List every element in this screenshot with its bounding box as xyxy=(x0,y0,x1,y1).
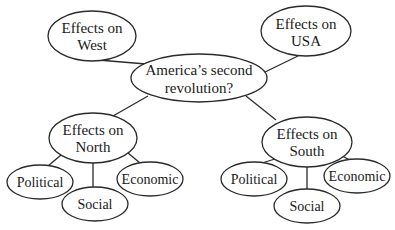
node-south-line1: Effects on xyxy=(277,126,338,142)
node-south-social: Social xyxy=(274,189,340,223)
concept-map-canvas: America’s second revolution? Effects on … xyxy=(0,0,395,230)
node-south-economic: Economic xyxy=(324,159,390,193)
node-south-line2: South xyxy=(289,143,325,159)
node-south-political-label: Political xyxy=(231,172,278,187)
node-north-line1: Effects on xyxy=(63,122,124,138)
node-north-social-label: Social xyxy=(78,197,113,212)
node-north-political-label: Political xyxy=(17,175,64,190)
node-south: Effects on South xyxy=(262,117,352,167)
node-north-political: Political xyxy=(7,165,73,199)
node-west: Effects on West xyxy=(48,11,136,61)
edge-north-political xyxy=(48,155,61,166)
node-north-economic-label: Economic xyxy=(122,172,179,187)
node-south-political: Political xyxy=(221,162,287,196)
edge-center-north xyxy=(113,96,148,116)
node-south-social-label: Social xyxy=(290,199,325,214)
node-west-line1: Effects on xyxy=(62,20,123,36)
node-north: Effects on North xyxy=(49,113,137,163)
node-usa-line2: USA xyxy=(291,33,321,49)
node-center-line1: America’s second xyxy=(145,62,253,78)
concept-map: America’s second revolution? Effects on … xyxy=(0,0,395,230)
node-usa: Effects on USA xyxy=(261,6,351,56)
node-center-line2: revolution? xyxy=(165,80,234,96)
node-north-social: Social xyxy=(62,187,128,221)
edge-north-economic xyxy=(128,153,140,163)
edge-center-south xyxy=(246,96,276,120)
node-usa-line1: Effects on xyxy=(276,16,337,32)
node-west-line2: West xyxy=(77,37,107,53)
node-center: America’s second revolution? xyxy=(131,54,267,102)
node-south-economic-label: Economic xyxy=(329,169,386,184)
edge-center-west xyxy=(98,60,146,64)
node-north-economic: Economic xyxy=(117,162,183,196)
edge-center-usa xyxy=(265,56,298,72)
node-north-line2: North xyxy=(76,139,111,155)
